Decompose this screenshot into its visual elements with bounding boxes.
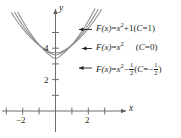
const-minus-3: − bbox=[148, 64, 153, 74]
exponent-2: 2 bbox=[121, 40, 124, 47]
paren-close-1: ) bbox=[152, 23, 155, 33]
const-fraction-denominator: 2 bbox=[154, 70, 158, 77]
x-tick-label-neg2: −2 bbox=[16, 115, 26, 125]
y-axis-label: y bbox=[59, 3, 63, 13]
curve-annotation-c-0: F(x)=x2(C=0) bbox=[96, 43, 157, 52]
fn-arg-1: (x) bbox=[102, 23, 112, 33]
fn-arg-2: (x) bbox=[102, 42, 112, 52]
fn-arg-3: (x) bbox=[102, 64, 112, 74]
y-tick-label-2: 2 bbox=[44, 75, 49, 85]
curve-annotation-c-1: F(x)=x2+1(C=1) bbox=[96, 24, 155, 33]
curve-c-half bbox=[11, 10, 101, 54]
x-axis-label: x bbox=[129, 103, 133, 113]
x-tick-label-2: 2 bbox=[85, 115, 90, 125]
minus-3: − bbox=[124, 64, 129, 74]
paren-close-3: ) bbox=[159, 64, 162, 74]
paren-close-2: ) bbox=[154, 42, 157, 52]
curve-annotation-c-half: F(x)=x2−12(C=−12) bbox=[96, 62, 162, 77]
parabola-family-figure: x y −2 2 2 4 F(x)=x2+1(C=1) F(x)=x2(C=0)… bbox=[0, 0, 181, 138]
y-tick-label-4: 4 bbox=[44, 43, 49, 53]
parabola-curves bbox=[11, 9, 101, 59]
const-fraction-one-half: 12 bbox=[154, 62, 158, 77]
